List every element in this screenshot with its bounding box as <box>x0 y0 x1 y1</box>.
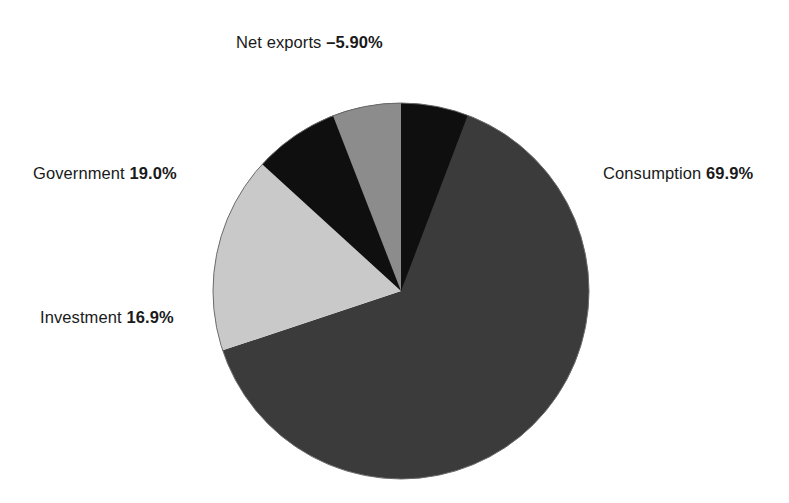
pie-label-government-value: 19.0% <box>129 164 176 182</box>
pie-label-consumption-value: 69.9% <box>706 164 753 182</box>
pie-label-investment-value: 16.9% <box>126 308 173 326</box>
pie-label-investment: Investment 16.9% <box>40 308 174 328</box>
pie-chart-figure: Net exports –5.90% Consumption 69.9% Gov… <box>0 0 789 503</box>
pie-label-net-exports-value: –5.90% <box>326 33 383 51</box>
pie-chart-canvas <box>0 0 789 503</box>
pie-label-government-name: Government <box>33 164 125 182</box>
pie-label-investment-name: Investment <box>40 308 122 326</box>
pie-label-net-exports: Net exports –5.90% <box>236 33 383 53</box>
pie-label-government: Government 19.0% <box>33 164 177 184</box>
pie-label-consumption: Consumption 69.9% <box>603 164 753 184</box>
pie-label-consumption-name: Consumption <box>603 164 701 182</box>
pie-label-net-exports-name: Net exports <box>236 33 321 51</box>
